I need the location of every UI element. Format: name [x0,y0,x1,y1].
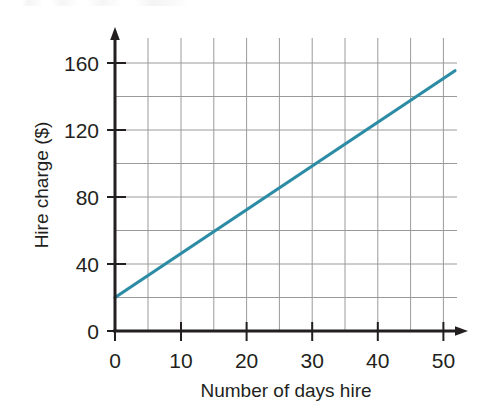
y-tick-label-120: 120 [64,119,99,142]
x-axis-tick-labels: 0 10 20 30 40 50 [109,349,455,372]
line-chart-plot: 160 120 80 40 0 0 10 20 30 40 50 Number … [0,0,487,414]
y-tick-label-0: 0 [87,320,99,343]
y-tick-label-80: 80 [76,186,99,209]
x-tick-label-30: 30 [301,349,324,372]
x-tick-label-50: 50 [432,349,455,372]
x-tick-label-40: 40 [366,349,389,372]
x-axis-arrow [455,326,468,336]
y-tick-label-160: 160 [64,52,99,75]
y-tick-label-40: 40 [76,253,99,276]
y-axis-tick-labels: 160 120 80 40 0 [64,52,99,343]
chart-figure: 160 120 80 40 0 0 10 20 30 40 50 Number … [0,0,487,414]
x-tick-label-0: 0 [109,349,121,372]
y-axis-arrow [110,27,120,40]
vertical-gridlines [148,38,443,331]
x-tick-label-20: 20 [235,349,258,372]
x-axis-title: Number of days hire [200,380,371,401]
y-axis-title: Hire charge ($) [31,122,52,249]
data-series-hire-charge [115,71,455,298]
x-tick-label-10: 10 [169,349,192,372]
